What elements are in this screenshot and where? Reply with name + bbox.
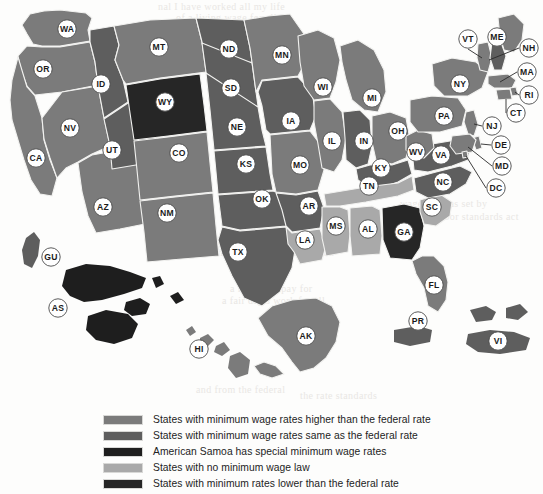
- state-label-ak[interactable]: AK: [297, 327, 315, 345]
- state-label-nm[interactable]: NM: [158, 204, 176, 222]
- state-label-gu[interactable]: GU: [42, 248, 60, 266]
- state-label-mt[interactable]: MT: [150, 38, 168, 56]
- state-label-nc[interactable]: NC: [434, 173, 452, 191]
- state-label-text: PA: [438, 111, 450, 121]
- state-label-text: KY: [375, 163, 387, 173]
- state-label-dc[interactable]: DC: [487, 179, 505, 197]
- state-label-co[interactable]: CO: [170, 144, 188, 162]
- state-wa[interactable]: [22, 10, 92, 46]
- state-label-ri[interactable]: RI: [520, 86, 538, 104]
- state-label-as[interactable]: AS: [49, 299, 67, 317]
- state-label-text: IA: [287, 116, 296, 126]
- state-or[interactable]: [18, 42, 98, 95]
- state-label-wy[interactable]: WY: [156, 93, 174, 111]
- state-label-text: WA: [60, 24, 74, 34]
- state-label-text: IN: [360, 136, 369, 146]
- state-gu[interactable]: [22, 232, 40, 268]
- state-label-va[interactable]: VA: [432, 146, 450, 164]
- state-label-text: GA: [397, 227, 410, 237]
- state-label-or[interactable]: OR: [34, 60, 52, 78]
- state-nj[interactable]: [464, 110, 478, 136]
- state-label-mo[interactable]: MO: [291, 156, 309, 174]
- state-label-vi[interactable]: VI: [489, 332, 507, 350]
- state-label-text: MT: [153, 42, 166, 52]
- state-label-al[interactable]: AL: [359, 220, 377, 238]
- state-label-mi[interactable]: MI: [363, 89, 381, 107]
- state-label-text: NH: [523, 43, 536, 53]
- state-label-nh[interactable]: NH: [520, 39, 538, 57]
- state-label-text: OK: [255, 194, 269, 204]
- state-label-me[interactable]: ME: [488, 28, 506, 46]
- state-label-ny[interactable]: NY: [451, 75, 469, 93]
- state-label-text: AZ: [97, 202, 109, 212]
- state-label-ut[interactable]: UT: [103, 141, 121, 159]
- legend-item: American Samoa has special minimum wage …: [103, 444, 463, 460]
- state-label-ok[interactable]: OK: [253, 190, 271, 208]
- state-label-text: MO: [293, 160, 307, 170]
- state-label-text: MA: [520, 67, 534, 77]
- state-label-vt[interactable]: VT: [459, 30, 477, 48]
- state-label-ky[interactable]: KY: [372, 159, 390, 177]
- legend-item: States with no minimum wage law: [103, 460, 463, 476]
- us-choropleth-map: WAORCANVAZIDUTMTWYCONMNDSDNEKSOKTXMNIAMO…: [0, 0, 543, 400]
- state-label-ga[interactable]: GA: [395, 223, 413, 241]
- legend-label: States with no minimum wage law: [153, 460, 310, 476]
- state-label-il[interactable]: IL: [323, 132, 341, 150]
- state-label-nd[interactable]: ND: [220, 40, 238, 58]
- state-label-text: CA: [30, 153, 43, 163]
- state-label-tx[interactable]: TX: [229, 243, 247, 261]
- state-label-sd[interactable]: SD: [222, 79, 240, 97]
- state-label-wv[interactable]: WV: [407, 143, 425, 161]
- state-co[interactable]: [134, 132, 213, 200]
- state-nm[interactable]: [140, 193, 219, 262]
- state-label-wi[interactable]: WI: [314, 78, 332, 96]
- state-label-text: SC: [426, 202, 438, 212]
- state-label-text: ID: [97, 79, 106, 89]
- state-label-mn[interactable]: MN: [273, 46, 291, 64]
- state-label-text: ND: [223, 44, 236, 54]
- state-label-text: NM: [160, 208, 174, 218]
- state-label-pa[interactable]: PA: [435, 107, 453, 125]
- state-label-ne[interactable]: NE: [228, 118, 246, 136]
- state-label-text: RI: [525, 90, 534, 100]
- state-label-pr[interactable]: PR: [409, 312, 427, 330]
- state-label-de[interactable]: DE: [492, 136, 510, 154]
- state-label-az[interactable]: AZ: [94, 198, 112, 216]
- state-label-ar[interactable]: AR: [300, 197, 318, 215]
- state-label-fl[interactable]: FL: [425, 276, 443, 294]
- state-label-ms[interactable]: MS: [327, 217, 345, 235]
- state-label-ca[interactable]: CA: [27, 149, 45, 167]
- legend-label: States with minimum wage rates higher th…: [153, 412, 431, 428]
- state-label-ks[interactable]: KS: [237, 155, 255, 173]
- state-label-ct[interactable]: CT: [507, 104, 525, 122]
- state-label-ma[interactable]: MA: [518, 63, 536, 81]
- state-label-ia[interactable]: IA: [282, 112, 300, 130]
- state-label-hi[interactable]: HI: [190, 340, 208, 358]
- state-label-nv[interactable]: NV: [61, 119, 79, 137]
- state-label-id[interactable]: ID: [92, 75, 110, 93]
- state-label-text: SD: [225, 83, 237, 93]
- state-label-la[interactable]: LA: [296, 231, 314, 249]
- state-label-text: AL: [362, 224, 374, 234]
- state-label-tn[interactable]: TN: [360, 177, 378, 195]
- state-label-text: IL: [328, 136, 336, 146]
- state-ct[interactable]: [496, 89, 512, 100]
- state-label-text: NJ: [486, 121, 497, 131]
- state-label-wa[interactable]: WA: [58, 20, 76, 38]
- state-md[interactable]: [450, 134, 476, 154]
- state-label-text: VA: [435, 150, 447, 160]
- state-label-md[interactable]: MD: [493, 157, 511, 175]
- state-label-nj[interactable]: NJ: [483, 117, 501, 135]
- state-label-text: LA: [299, 235, 311, 245]
- state-label-text: NY: [454, 79, 466, 89]
- legend-label: American Samoa has special minimum wage …: [153, 444, 386, 460]
- state-label-text: CO: [172, 148, 185, 158]
- state-tx[interactable]: [218, 227, 296, 306]
- state-label-text: NE: [231, 122, 243, 132]
- state-label-in[interactable]: IN: [355, 132, 373, 150]
- state-label-text: ME: [490, 32, 503, 42]
- state-as[interactable]: [62, 264, 184, 344]
- state-label-sc[interactable]: SC: [423, 198, 441, 216]
- state-label-text: TN: [363, 181, 375, 191]
- state-label-oh[interactable]: OH: [389, 122, 407, 140]
